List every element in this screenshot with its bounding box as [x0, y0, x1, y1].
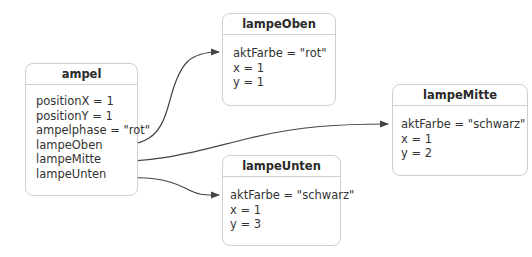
attribute: aktFarbe = "schwarz" [401, 117, 527, 132]
attribute-list: aktFarbe = "schwarz" x = 1 y = 3 [223, 177, 340, 232]
object-lampeMitte: lampeMitte aktFarbe = "schwarz" x = 1 y … [392, 84, 528, 176]
attribute: y = 1 [233, 75, 335, 90]
object-title: ampel [26, 64, 137, 85]
attribute: x = 1 [230, 203, 340, 218]
attribute: positionY = 1 [36, 109, 137, 124]
object-title: lampeOben [223, 14, 335, 35]
object-title: lampeUnten [223, 156, 340, 177]
attribute: lampeOben [36, 138, 137, 153]
attribute-list: aktFarbe = "schwarz" x = 1 y = 2 [393, 106, 527, 161]
attribute: aktFarbe = "schwarz" [230, 188, 340, 203]
attribute: lampeMitte [36, 152, 137, 167]
object-lampeUnten: lampeUnten aktFarbe = "schwarz" x = 1 y … [222, 155, 341, 246]
object-title: lampeMitte [393, 85, 527, 106]
attribute: x = 1 [233, 61, 335, 76]
object-ampel: ampel positionX = 1 positionY = 1 ampelp… [25, 63, 138, 196]
attribute: y = 2 [401, 146, 527, 161]
attribute: ampelphase = "rot" [36, 123, 137, 138]
object-lampeOben: lampeOben aktFarbe = "rot" x = 1 y = 1 [222, 13, 336, 106]
attribute-list: positionX = 1 positionY = 1 ampelphase =… [26, 85, 137, 181]
attribute: aktFarbe = "rot" [233, 46, 335, 61]
attribute: lampeUnten [36, 167, 137, 182]
attribute: y = 3 [230, 217, 340, 232]
attribute: x = 1 [401, 132, 527, 147]
attribute: positionX = 1 [36, 94, 137, 109]
attribute-list: aktFarbe = "rot" x = 1 y = 1 [223, 35, 335, 90]
